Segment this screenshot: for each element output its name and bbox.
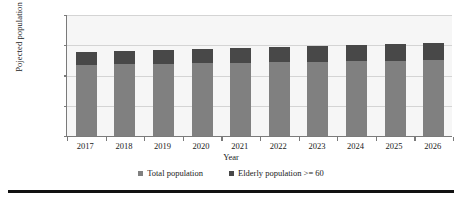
bar-segment-total[interactable]	[114, 64, 135, 137]
bar-group[interactable]	[114, 51, 135, 137]
chart-legend: Total populationElderly population >= 60	[0, 168, 462, 178]
x-tick-label: 2022	[258, 141, 298, 151]
legend-entry[interactable]: Elderly population >= 60	[229, 168, 324, 178]
bar-group[interactable]	[307, 46, 328, 138]
bar-segment-total[interactable]	[423, 60, 444, 137]
bar-segment-elderly[interactable]	[346, 45, 367, 61]
bar-segment-total[interactable]	[385, 61, 406, 137]
bar-group[interactable]	[423, 43, 444, 137]
bar-group[interactable]	[346, 45, 367, 137]
bar-segment-elderly[interactable]	[114, 51, 135, 64]
bar-segment-elderly[interactable]	[153, 50, 174, 64]
x-tick-label: 2021	[220, 141, 260, 151]
legend-label: Total population	[147, 168, 203, 178]
x-tick-mark	[453, 137, 454, 141]
x-tick-label: 2019	[143, 141, 183, 151]
bar-segment-total[interactable]	[230, 63, 251, 137]
bar-segment-total[interactable]	[307, 62, 328, 137]
bar-segment-elderly[interactable]	[269, 47, 290, 62]
bar-group[interactable]	[76, 52, 97, 137]
x-tick-mark	[414, 137, 415, 141]
legend-entry[interactable]: Total population	[138, 168, 203, 178]
bar-segment-elderly[interactable]	[423, 43, 444, 60]
x-tick-mark	[183, 137, 184, 141]
x-tick-mark	[144, 137, 145, 141]
x-tick-mark	[337, 137, 338, 141]
x-tick-label: 2025	[374, 141, 414, 151]
x-tick-mark	[106, 137, 107, 141]
bar-group[interactable]	[269, 47, 290, 137]
x-tick-mark	[67, 137, 68, 141]
legend-swatch	[229, 171, 234, 176]
projected-population-chart: Pojected population 02,000,0004,000,0006…	[0, 0, 462, 205]
bar-segment-elderly[interactable]	[385, 44, 406, 61]
bar-group[interactable]	[230, 48, 251, 137]
y-axis-title: Pojected population	[14, 0, 24, 97]
x-tick-label: 2017	[65, 141, 105, 151]
plot-area: 02,000,0004,000,0006,000,0008,000,000	[66, 16, 452, 137]
bar-segment-total[interactable]	[192, 63, 213, 137]
x-tick-label: 2026	[413, 141, 453, 151]
x-tick-label: 2018	[104, 141, 144, 151]
bar-group[interactable]	[385, 44, 406, 137]
x-tick-label: 2023	[297, 141, 337, 151]
x-tick-mark	[299, 137, 300, 141]
bar-segment-total[interactable]	[76, 65, 97, 137]
bar-series-container	[67, 16, 452, 137]
bar-segment-total[interactable]	[153, 64, 174, 137]
x-tick-mark	[221, 137, 222, 141]
bar-group[interactable]	[153, 50, 174, 137]
bar-segment-elderly[interactable]	[76, 52, 97, 65]
x-tick-label: 2024	[336, 141, 376, 151]
x-tick-label: 2020	[181, 141, 221, 151]
bar-segment-total[interactable]	[269, 62, 290, 137]
bar-segment-total[interactable]	[346, 61, 367, 137]
bottom-divider-rule	[8, 190, 454, 193]
bar-group[interactable]	[192, 49, 213, 137]
bar-segment-elderly[interactable]	[307, 46, 328, 62]
legend-swatch	[138, 171, 143, 176]
x-tick-mark	[376, 137, 377, 141]
legend-label: Elderly population >= 60	[238, 168, 324, 178]
x-axis-title: Year	[0, 152, 462, 162]
bar-segment-elderly[interactable]	[192, 49, 213, 63]
bar-segment-elderly[interactable]	[230, 48, 251, 63]
x-tick-mark	[260, 137, 261, 141]
